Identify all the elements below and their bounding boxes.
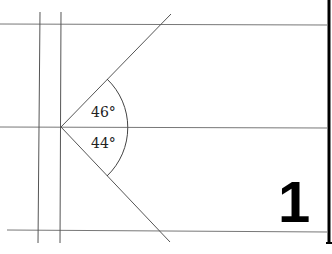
middle-horizontal-line	[0, 127, 327, 128]
diagram-canvas: 46° 44° 1	[0, 0, 332, 254]
lower-angle-label: 44°	[91, 135, 116, 151]
top-horizontal-line	[0, 24, 327, 25]
figure-number: 1	[278, 169, 310, 234]
upper-ray	[61, 14, 171, 127]
upper-angle-label: 46°	[91, 104, 116, 120]
